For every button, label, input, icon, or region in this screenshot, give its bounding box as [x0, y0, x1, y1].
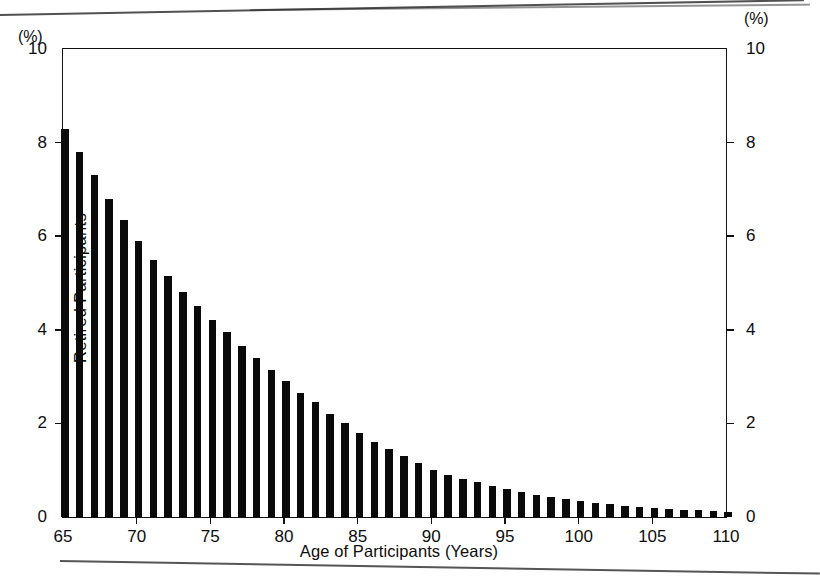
bar — [105, 199, 112, 517]
bar — [61, 129, 68, 517]
x-tick — [431, 517, 433, 524]
y-tick-label-right: 4 — [746, 320, 780, 340]
bar — [385, 449, 392, 517]
bar — [547, 497, 554, 517]
bar — [341, 423, 348, 517]
bar — [400, 456, 407, 517]
bar — [430, 470, 437, 517]
y-tick-label-right: 8 — [746, 133, 780, 153]
bar — [592, 503, 599, 517]
bar — [577, 501, 584, 517]
bar — [651, 508, 658, 517]
bar — [150, 260, 157, 517]
bar — [223, 332, 230, 517]
scan-artifact-line-bottom — [60, 560, 820, 574]
x-axis-title: Age of Participants (Years) — [0, 542, 798, 561]
y-tick-right — [726, 423, 734, 425]
bar — [135, 241, 142, 517]
y-tick-label-left: 10 — [13, 39, 47, 59]
bar — [415, 463, 422, 517]
y-tick-right — [726, 235, 734, 237]
bar — [238, 346, 245, 517]
x-tick — [504, 517, 506, 524]
bar — [268, 370, 275, 517]
x-tick — [357, 517, 359, 524]
y-axis-unit-label-right: (%) — [744, 10, 768, 28]
x-tick — [578, 517, 580, 524]
bar — [695, 510, 702, 517]
y-tick-label-right: 6 — [746, 226, 780, 246]
y-tick-left — [55, 235, 63, 237]
bar — [474, 482, 481, 517]
bar — [562, 499, 569, 517]
x-tick — [283, 517, 285, 524]
bar — [724, 512, 731, 517]
y-tick-label-left: 8 — [13, 133, 47, 153]
y-tick-label-left: 6 — [13, 226, 47, 246]
bar — [533, 495, 540, 517]
bar — [194, 306, 201, 517]
y-tick-label-left: 0 — [13, 507, 47, 527]
bar — [371, 442, 378, 517]
y-tick-label-left: 4 — [13, 320, 47, 340]
bar — [297, 393, 304, 517]
bar — [312, 402, 319, 517]
x-tick — [210, 517, 212, 524]
y-axis-title: Retired Participants — [71, 213, 90, 363]
bar — [91, 175, 98, 517]
bar — [120, 220, 127, 517]
bar — [444, 475, 451, 517]
bar — [209, 320, 216, 517]
bar — [606, 504, 613, 517]
y-tick-right — [726, 329, 734, 331]
y-tick-left — [55, 142, 63, 144]
bar — [518, 492, 525, 517]
y-tick-left — [55, 329, 63, 331]
bar — [164, 276, 171, 517]
bar — [665, 509, 672, 517]
bar — [326, 414, 333, 517]
y-tick-label-right: 10 — [746, 39, 780, 59]
bar — [179, 292, 186, 517]
plot-area: 0022446688101065707580859095100105110 — [62, 48, 727, 518]
x-tick — [652, 517, 654, 524]
bar — [636, 507, 643, 517]
bar — [503, 489, 510, 517]
bar — [282, 381, 289, 517]
bar — [356, 433, 363, 517]
bar — [621, 506, 628, 517]
bar — [710, 511, 717, 517]
y-tick-label-left: 2 — [13, 413, 47, 433]
y-tick-label-right: 2 — [746, 413, 780, 433]
bar — [489, 486, 496, 517]
bar — [680, 510, 687, 517]
y-tick-right — [726, 142, 734, 144]
x-tick — [136, 517, 138, 524]
bar — [253, 358, 260, 517]
y-tick-label-right: 0 — [746, 507, 780, 527]
bar — [459, 479, 466, 517]
scan-artifact-line-top — [0, 0, 804, 16]
y-tick-left — [55, 423, 63, 425]
